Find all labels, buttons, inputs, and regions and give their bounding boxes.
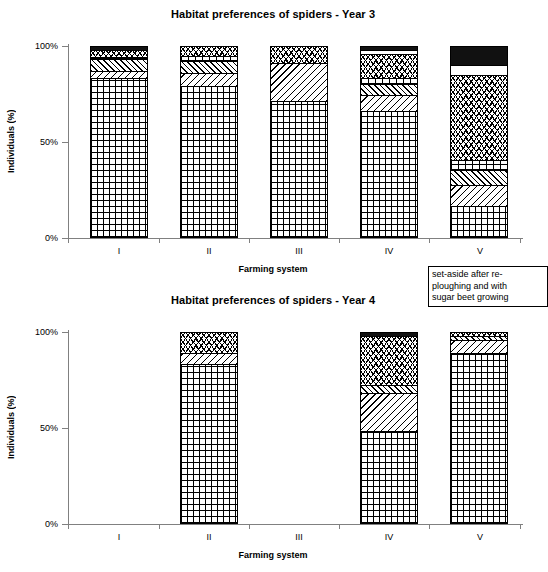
segment-habitat-3: [361, 386, 417, 394]
y-tick-label-0-year3: 0%: [14, 233, 58, 243]
legend-callout-box: set-aside after re- ploughing and with s…: [428, 266, 548, 307]
segment-habitat-1: [451, 207, 507, 237]
segment-habitat-1: [271, 102, 327, 237]
segment-habitat-5: [271, 47, 327, 64]
segment-habitat-1: [451, 354, 507, 523]
x-tick-2-year3: [249, 238, 250, 243]
segment-habitat-6: [451, 66, 507, 76]
segment-habitat-5: [181, 47, 237, 57]
plot-area-year3: [68, 46, 520, 238]
y-tick-label-0-year4: 0%: [14, 519, 58, 529]
x-label-IV-year4: IV: [359, 532, 419, 542]
segment-habitat-5: [451, 76, 507, 162]
x-tick-0-year4: [68, 524, 69, 529]
bar-year3-III[interactable]: [270, 46, 328, 238]
segment-habitat-3: [451, 171, 507, 186]
segment-habitat-3: [361, 85, 417, 96]
x-label-V-year3: V: [450, 246, 510, 256]
segment-habitat-2: [361, 394, 417, 432]
legend-line-2: ploughing and with: [432, 281, 544, 293]
legend-line-3: sugar beet growing: [432, 292, 544, 304]
y-tick-label-100-year3: 100%: [14, 41, 58, 51]
x-axis-line-year4: [68, 524, 523, 525]
y-tick-label-50-year4: 50%: [14, 423, 58, 433]
x-axis-line-year3: [68, 238, 523, 239]
x-axis-title-year4: Farming system: [0, 550, 546, 560]
x-label-III-year4: III: [269, 532, 329, 542]
x-label-II-year4: II: [179, 532, 239, 542]
bar-year3-V[interactable]: [450, 46, 508, 238]
y-tick-label-50-year3: 50%: [14, 137, 58, 147]
y-tick-label-100-year4: 100%: [14, 327, 58, 337]
x-label-I-year4: I: [89, 532, 149, 542]
x-label-V-year4: V: [450, 532, 510, 542]
segment-habitat-7: [451, 47, 507, 66]
bar-year3-IV[interactable]: [360, 46, 418, 238]
segment-habitat-1: [181, 365, 237, 523]
x-tick-2-year4: [249, 524, 250, 529]
segment-habitat-2: [91, 72, 147, 80]
x-tick-5-year4: [520, 524, 521, 529]
segment-habitat-2: [361, 96, 417, 111]
segment-habitat-5: [91, 51, 147, 59]
x-tick-4-year3: [429, 238, 430, 243]
x-label-IV-year3: IV: [359, 246, 419, 256]
x-tick-0-year3: [68, 238, 69, 243]
segment-habitat-2: [451, 186, 507, 207]
bar-year4-V[interactable]: [450, 332, 508, 524]
chart-title-year3: Habitat preferences of spiders - Year 3: [0, 8, 546, 20]
segment-habitat-2: [181, 354, 237, 365]
x-label-II-year3: II: [179, 246, 239, 256]
segment-habitat-5: [361, 55, 417, 80]
x-label-III-year3: III: [269, 246, 329, 256]
segment-habitat-1: [181, 87, 237, 237]
segment-habitat-3: [91, 60, 147, 71]
segment-habitat-1: [91, 79, 147, 237]
segment-habitat-3: [181, 62, 237, 73]
segment-habitat-4: [451, 161, 507, 171]
segment-habitat-1: [361, 432, 417, 523]
x-tick-1-year4: [159, 524, 160, 529]
segment-habitat-2: [271, 64, 327, 102]
bar-year4-II[interactable]: [180, 332, 238, 524]
x-tick-3-year3: [339, 238, 340, 243]
segment-habitat-4: [181, 333, 237, 354]
x-tick-1-year3: [159, 238, 160, 243]
x-tick-5-year3: [520, 238, 521, 243]
plot-area-year4: [68, 332, 520, 524]
segment-habitat-4: [361, 337, 417, 386]
segment-habitat-2: [451, 341, 507, 354]
x-tick-3-year4: [339, 524, 340, 529]
bar-year4-IV[interactable]: [360, 332, 418, 524]
bar-year3-II[interactable]: [180, 46, 238, 238]
segment-habitat-1: [361, 112, 417, 237]
segment-habitat-2: [181, 74, 237, 87]
legend-line-1: set-aside after re-: [432, 269, 544, 281]
bar-year3-I[interactable]: [90, 46, 148, 238]
chart-year4: Habitat preferences of spiders - Year 4 …: [0, 286, 546, 572]
x-label-I-year3: I: [89, 246, 149, 256]
x-tick-4-year4: [429, 524, 430, 529]
chart-year3: Habitat preferences of spiders - Year 3 …: [0, 0, 546, 286]
